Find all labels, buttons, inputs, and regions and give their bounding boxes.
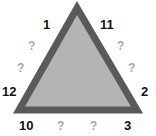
number-top-left: 1 xyxy=(43,18,50,31)
triangle-puzzle: 1 11 12 2 10 3 ? ? ? ? ? ? xyxy=(0,0,156,136)
number-top-right: 11 xyxy=(100,18,114,31)
number-bottom-right: 3 xyxy=(124,119,131,132)
unknown-left-upper: ? xyxy=(28,40,35,52)
unknown-left-lower: ? xyxy=(17,62,24,74)
number-bottom-left: 10 xyxy=(19,119,33,132)
number-mid-right: 2 xyxy=(141,85,148,98)
unknown-bottom-right: ? xyxy=(90,120,97,132)
unknown-right-upper: ? xyxy=(117,40,124,52)
number-mid-left: 12 xyxy=(2,85,16,98)
unknown-right-lower: ? xyxy=(128,62,135,74)
unknown-bottom-left: ? xyxy=(57,120,64,132)
